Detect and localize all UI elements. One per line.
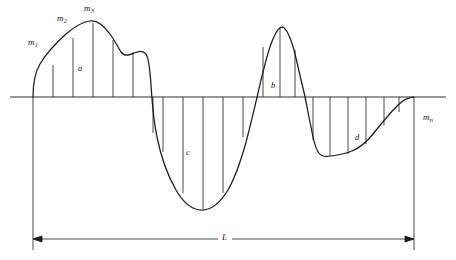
label-m2: m2 [57,14,67,23]
region-label-a: a [78,64,82,73]
label-m2-base: m [57,13,64,23]
label-mn-base: m [423,112,430,122]
label-mn-sub: n [430,116,433,123]
label-m1-base: m [28,37,35,47]
dimension-label-L: L [222,233,227,242]
label-mn: mn [423,113,433,122]
label-m3: m3 [84,4,94,13]
wave-ordinate-figure [0,0,456,260]
region-label-d: d [355,133,359,142]
label-m2-sub: 2 [64,17,67,24]
arrowhead-right [405,236,414,242]
region-label-b: b [271,81,275,90]
label-m1: m1 [28,38,38,47]
label-m3-base: m [84,3,91,13]
wave-profile-curve [33,21,414,210]
ordinate-lines [53,23,399,209]
arrowhead-left [33,236,42,242]
label-m3-sub: 3 [91,7,94,14]
label-m1-sub: 1 [35,41,38,48]
region-label-c: c [186,148,190,157]
dimension-extension-lines [33,97,414,250]
